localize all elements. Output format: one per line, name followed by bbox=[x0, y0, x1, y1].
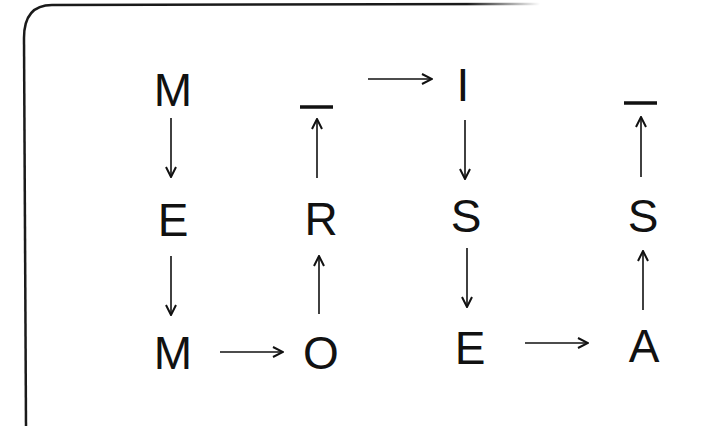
letter-i: I bbox=[433, 62, 493, 108]
letter-e-left: E bbox=[143, 197, 203, 243]
frame-left-edge bbox=[24, 38, 26, 426]
letter-r: R bbox=[291, 196, 351, 242]
letter-s-right: S bbox=[613, 193, 673, 239]
letter-m-top: M bbox=[143, 67, 203, 113]
letter-o: O bbox=[291, 330, 351, 376]
letter-s-middle: S bbox=[436, 193, 496, 239]
letter-a: A bbox=[614, 323, 674, 369]
letter-e-right: E bbox=[440, 325, 500, 371]
frame-top-edge bbox=[52, 4, 540, 5]
frame-corner bbox=[24, 5, 52, 38]
letter-m-bottom: M bbox=[143, 330, 203, 376]
